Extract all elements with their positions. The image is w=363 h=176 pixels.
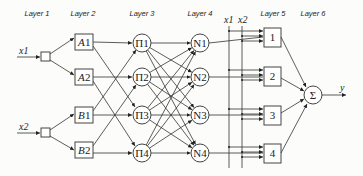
consequent-nodes: 1 2 3 4 xyxy=(264,28,281,163)
layer-label-1: Layer 1 xyxy=(24,9,49,18)
svg-text:A: A xyxy=(77,71,85,83)
norm-node-3-label: N3 xyxy=(193,109,207,121)
product-node-3-label: Π3 xyxy=(135,109,149,121)
anfis-network-svg: Layer 1 Layer 2 Layer 3 Layer 4 Layer 5 … xyxy=(0,0,363,176)
bus-taps xyxy=(228,30,263,158)
layer5-to-layer6-links xyxy=(281,37,307,153)
svg-text:B: B xyxy=(78,109,85,121)
membership-node-b1: B 1 xyxy=(75,107,93,123)
bus-label-x1: x1 xyxy=(223,14,233,25)
bus-label-x2: x2 xyxy=(237,14,247,25)
svg-text:1: 1 xyxy=(85,36,91,48)
layer-label-5: Layer 5 xyxy=(260,9,286,18)
product-node-1-label: Π1 xyxy=(135,37,148,49)
product-node-4-label: Π4 xyxy=(135,147,149,159)
input-x1: x1 xyxy=(17,38,74,75)
sum-node: Σ xyxy=(304,86,322,104)
membership-nodes: A 1 A 2 B 1 B 2 xyxy=(75,34,93,158)
product-nodes: Π1 Π2 Π3 Π4 xyxy=(133,34,151,162)
membership-node-a1: A 1 xyxy=(75,34,93,50)
layer-label-3: Layer 3 xyxy=(129,9,155,18)
svg-text:2: 2 xyxy=(85,144,91,156)
layer3-to-layer4-links xyxy=(146,43,195,153)
layer2-to-layer3-links xyxy=(93,42,136,153)
anfis-diagram: Layer 1 Layer 2 Layer 3 Layer 4 Layer 5 … xyxy=(0,0,363,176)
membership-node-a2: A 2 xyxy=(75,69,93,85)
svg-text:2: 2 xyxy=(270,70,276,82)
input-bus: x1 x2 xyxy=(223,14,247,168)
svg-text:3: 3 xyxy=(270,109,276,121)
membership-node-b2: B 2 xyxy=(75,142,93,158)
layer4-to-layer5-links xyxy=(209,37,263,153)
input-node-x2 xyxy=(41,128,50,137)
svg-text:1: 1 xyxy=(85,109,91,121)
input-label-x2: x2 xyxy=(18,121,28,132)
svg-text:A: A xyxy=(77,36,85,48)
svg-text:2: 2 xyxy=(85,71,91,83)
normalization-nodes: N1 N2 N3 N4 xyxy=(191,34,209,162)
input-label-x1: x1 xyxy=(18,45,28,56)
layer-label-2: Layer 2 xyxy=(70,9,96,18)
svg-text:1: 1 xyxy=(270,31,276,43)
norm-node-4-label: N4 xyxy=(193,147,207,159)
layer-labels: Layer 1 Layer 2 Layer 3 Layer 4 Layer 5 … xyxy=(24,9,326,18)
output-label: y xyxy=(339,82,345,93)
layer-label-4: Layer 4 xyxy=(187,9,212,18)
input-x2: x2 xyxy=(17,114,74,150)
layer-label-6: Layer 6 xyxy=(300,9,326,18)
svg-text:B: B xyxy=(78,144,85,156)
input-node-x1 xyxy=(41,52,50,61)
product-node-2-label: Π2 xyxy=(135,71,148,83)
norm-node-2-label: N2 xyxy=(193,71,206,83)
svg-text:4: 4 xyxy=(270,147,276,159)
sum-symbol: Σ xyxy=(310,89,316,101)
norm-node-1-label: N1 xyxy=(193,37,206,49)
output-y: y xyxy=(322,82,346,95)
